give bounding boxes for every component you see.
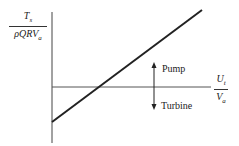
turbine-arrow-icon [152,87,157,110]
x-axis-label: Ut Va [214,74,228,105]
y-axis-label: Ts ρQRVa [9,11,47,42]
pump-arrow-icon [152,62,157,87]
pump-label: Pump [162,64,185,74]
turbine-label: Turbine [161,101,192,111]
